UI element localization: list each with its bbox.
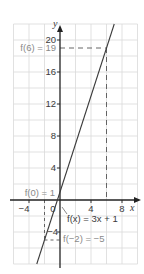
y-tick-neg4: −4 (47, 226, 58, 237)
y-axis-label: y (52, 18, 58, 29)
x-tick-0: 0 (50, 203, 55, 214)
annotation-f0: f(0) = 1 (25, 187, 55, 198)
y-tick-8: 8 (51, 130, 56, 141)
y-tick-16: 16 (45, 66, 56, 77)
function-graph: y x 20 16 12 8 4 −4 −4 0 4 8 f(6) = 19 f… (0, 0, 144, 274)
annotation-fneg2: f(−2) = −5 (63, 233, 104, 244)
annotation-f6: f(6) = 19 (20, 42, 56, 53)
x-tick-8: 8 (119, 203, 124, 214)
y-tick-12: 12 (45, 98, 56, 109)
y-axis-arrow-icon (57, 25, 63, 32)
x-axis-label: x (129, 202, 135, 213)
annotation-fx: f(x) = 3x + 1 (67, 213, 118, 224)
x-tick-neg4: −4 (19, 203, 30, 214)
y-tick-4: 4 (51, 162, 56, 173)
